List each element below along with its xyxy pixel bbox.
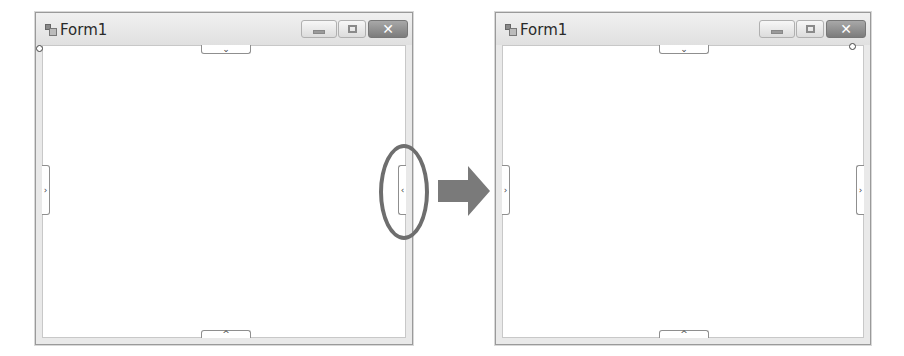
client-area: [42, 45, 406, 338]
app-window-icon: [45, 24, 57, 36]
chevron-up-icon: ^: [222, 330, 230, 339]
chevron-right-icon: ›: [504, 186, 508, 195]
highlight-ellipse: [379, 144, 429, 240]
close-button[interactable]: ✕: [826, 20, 866, 38]
chevron-right-icon: ›: [859, 186, 863, 195]
close-icon: ✕: [382, 21, 394, 37]
edge-tab-left[interactable]: ›: [502, 165, 510, 215]
right-arrow-icon: [438, 166, 490, 216]
edge-tab-top[interactable]: ⌄: [201, 45, 251, 54]
edge-tab-right[interactable]: ›: [856, 165, 864, 215]
close-icon: ✕: [840, 21, 852, 37]
resize-handle[interactable]: [36, 45, 43, 52]
client-area: [502, 45, 864, 338]
maximize-button[interactable]: [338, 20, 366, 38]
window-title: Form1: [520, 21, 567, 39]
minimize-icon: [771, 30, 783, 34]
title-bar[interactable]: Form1 ✕: [36, 13, 412, 45]
window-title: Form1: [60, 21, 107, 39]
edge-tab-bottom[interactable]: ^: [201, 330, 251, 338]
resize-handle[interactable]: [849, 43, 856, 50]
chevron-down-icon: ⌄: [680, 45, 688, 54]
before-window: Form1 ✕ ⌄ › ‹ ^: [35, 12, 413, 345]
chevron-up-icon: ^: [680, 330, 688, 339]
edge-tab-left[interactable]: ›: [42, 165, 50, 215]
app-window-icon: [505, 24, 517, 36]
title-bar[interactable]: Form1 ✕: [496, 13, 870, 45]
edge-tab-top[interactable]: ⌄: [659, 45, 709, 54]
minimize-button[interactable]: [301, 20, 337, 38]
close-button[interactable]: ✕: [368, 20, 408, 38]
maximize-icon: [348, 25, 357, 33]
after-window: Form1 ✕ ⌄ › › ^: [495, 12, 871, 345]
edge-tab-bottom[interactable]: ^: [659, 330, 709, 338]
maximize-icon: [806, 25, 815, 33]
minimize-button[interactable]: [759, 20, 795, 38]
minimize-icon: [313, 30, 325, 34]
chevron-right-icon: ›: [44, 186, 48, 195]
chevron-down-icon: ⌄: [222, 45, 230, 54]
maximize-button[interactable]: [796, 20, 824, 38]
